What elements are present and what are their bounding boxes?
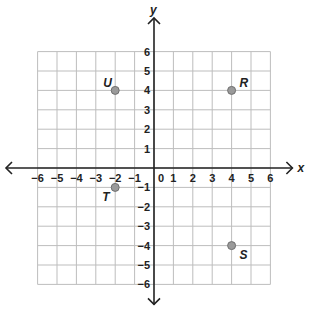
x-tick-label: 1 xyxy=(170,172,176,184)
point-label-t: T xyxy=(102,190,111,204)
x-tick-label: 0 xyxy=(158,172,164,184)
x-tick-label: −6 xyxy=(31,172,44,184)
x-tick-label: 6 xyxy=(267,172,273,184)
y-tick-label: −1 xyxy=(137,181,150,193)
x-tick-label: −5 xyxy=(51,172,64,184)
point-label-s: S xyxy=(240,248,248,262)
y-tick-label: 6 xyxy=(144,46,150,58)
point-s xyxy=(228,242,236,250)
y-tick-label: 1 xyxy=(144,143,150,155)
y-tick-label: −6 xyxy=(137,278,150,290)
point-t xyxy=(111,183,119,191)
y-tick-label: 4 xyxy=(144,84,151,96)
x-tick-label: 2 xyxy=(190,172,196,184)
x-tick-label: 4 xyxy=(229,172,236,184)
y-tick-label: 3 xyxy=(144,104,150,116)
x-tick-label: −4 xyxy=(70,172,83,184)
x-tick-label: −2 xyxy=(109,172,122,184)
y-axis-label: y xyxy=(149,3,158,17)
x-tick-label: −3 xyxy=(90,172,103,184)
coordinate-plane: xy −6−5−4−3−2−10123456−6−5−4−3−2−1123456… xyxy=(0,0,318,315)
y-tick-label: −4 xyxy=(137,240,150,252)
x-tick-label: 3 xyxy=(209,172,215,184)
y-tick-label: −2 xyxy=(137,201,150,213)
y-tick-label: −3 xyxy=(137,220,150,232)
point-label-u: U xyxy=(103,76,112,90)
y-tick-label: 2 xyxy=(144,123,150,135)
axes: xy xyxy=(6,3,305,304)
point-u xyxy=(111,86,119,94)
points: URTS xyxy=(102,76,248,261)
x-tick-label: 5 xyxy=(248,172,254,184)
y-tick-label: 5 xyxy=(144,65,150,77)
point-label-r: R xyxy=(240,76,249,90)
point-r xyxy=(228,86,236,94)
y-tick-label: −5 xyxy=(137,259,150,271)
x-axis-label: x xyxy=(296,161,305,175)
